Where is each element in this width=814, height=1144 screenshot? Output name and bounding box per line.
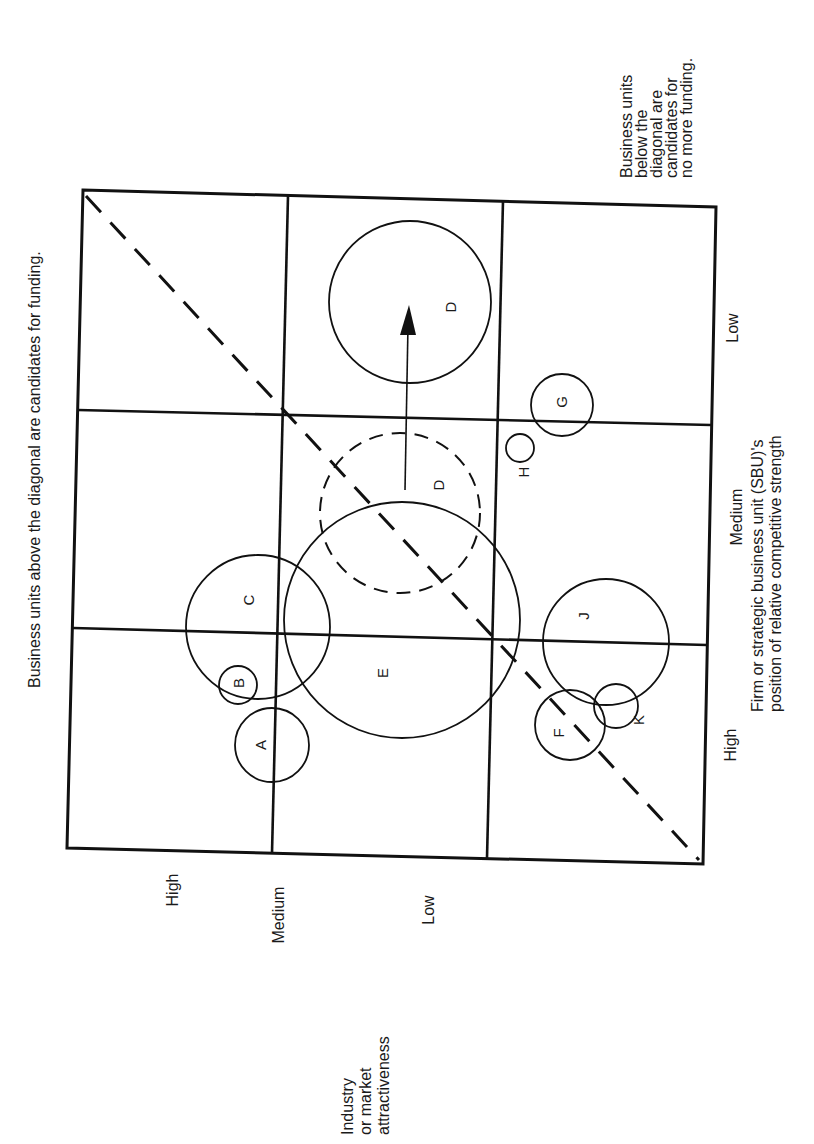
x-axis-title-line: position of relative competitive strengt… xyxy=(767,435,784,712)
x-tick-low: Low xyxy=(724,313,741,343)
bubble-label: J xyxy=(575,612,592,620)
y-tick-high: High xyxy=(164,874,181,907)
grid-line-vertical-1 xyxy=(272,196,288,853)
bubble-label: A xyxy=(252,740,269,750)
bubble-H: H xyxy=(506,434,534,477)
grid-line-horizontal-2 xyxy=(73,628,707,645)
bubble-label: D xyxy=(442,301,459,312)
bubble-label: G xyxy=(553,396,570,408)
y-tick-medium: Medium xyxy=(270,887,287,944)
bubble-E: E xyxy=(284,502,520,738)
bubble-G: G xyxy=(531,374,593,436)
bubble-C: C xyxy=(186,555,330,699)
note-line: no more funding. xyxy=(678,58,695,178)
bubble-label: E xyxy=(374,668,391,678)
bubble-label: F xyxy=(550,728,567,737)
x-tick-high: High xyxy=(722,729,739,762)
bubble-label: K xyxy=(630,715,647,725)
funding-diagonal xyxy=(86,196,699,860)
bubble-label: C xyxy=(240,594,257,605)
grid-line-vertical-2 xyxy=(487,201,503,858)
bubble-label: H xyxy=(515,467,532,478)
no-funding-note: Business units below the diagonal are ca… xyxy=(618,58,695,178)
movement-arrow-icon xyxy=(400,305,416,490)
portfolio-matrix-figure: A B C E D D G H J F K xyxy=(0,0,814,1144)
y-axis-title-line: attractiveness xyxy=(375,1036,392,1135)
bubble-D-new: D xyxy=(329,221,491,383)
bubble-D-previous-dashed: D xyxy=(320,433,480,593)
y-axis-title-line: Industry xyxy=(339,1078,356,1135)
x-tick-medium: Medium xyxy=(728,489,745,546)
bubble-A: A xyxy=(235,708,309,782)
bubble-K: K xyxy=(594,684,647,728)
x-axis-title: Firm or strategic business unit (SBU)'s … xyxy=(749,435,784,712)
funding-note-above: Business units above the diagonal are ca… xyxy=(26,251,43,688)
y-axis-title-line: or market xyxy=(357,1067,374,1135)
bubble-label: B xyxy=(230,678,247,688)
x-axis-title-line: Firm or strategic business unit (SBU)'s xyxy=(749,440,766,712)
y-tick-low: Low xyxy=(420,895,437,925)
grid-line-horizontal-1 xyxy=(78,410,711,425)
bubble-label: D xyxy=(430,479,447,490)
y-axis-title: Industry or market attractiveness xyxy=(339,1036,392,1135)
